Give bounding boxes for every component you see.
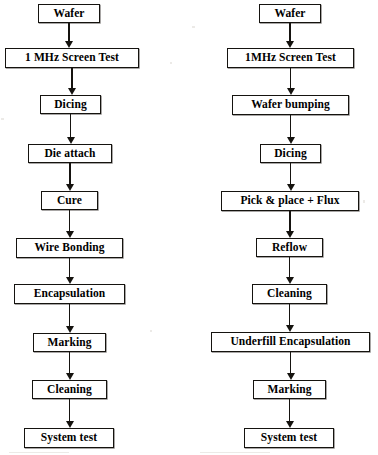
flip-chip-arrow-4 — [285, 163, 296, 191]
flip-chip-step-8: Underfill Encapsulation — [211, 332, 370, 352]
wire-bond-step-10: System test — [24, 428, 114, 448]
arrow-head-icon — [66, 326, 74, 333]
arrow-head-icon — [287, 373, 295, 380]
wire-bond-step-4: Die attach — [28, 144, 112, 163]
arrow-head-icon — [68, 88, 76, 95]
flip-chip-step-4: Dicing — [260, 144, 321, 163]
wire-bond-step-9: Cleaning — [32, 380, 107, 399]
arrow-stem — [69, 399, 71, 422]
process-step-label: 1MHz Screen Test — [245, 52, 336, 64]
process-step-label: Wafer bumping — [251, 99, 330, 111]
arrow-head-icon — [66, 277, 74, 284]
arrow-stem — [290, 68, 292, 89]
wire-bond-step-7: Encapsulation — [14, 284, 125, 304]
arrow-head-icon — [287, 184, 295, 191]
wire-bond-step-3: Dicing — [40, 95, 101, 114]
arrow-head-icon — [286, 325, 294, 332]
flip-chip-step-5: Pick & place + Flux — [221, 191, 359, 211]
process-step-label: System test — [261, 432, 317, 444]
process-step-label: Wire Bonding — [34, 242, 104, 254]
process-step-label: Reflow — [272, 241, 307, 253]
wire-bond-arrow-3 — [65, 114, 76, 144]
arrow-stem — [69, 163, 71, 185]
process-step-label: Pick & place + Flux — [240, 195, 339, 207]
arrow-head-icon — [286, 421, 294, 428]
arrow-stem — [69, 352, 71, 374]
process-step-label: Wafer — [53, 7, 84, 19]
arrow-stem — [71, 68, 73, 89]
arrow-head-icon — [286, 41, 294, 48]
process-step-label: Wafer — [274, 7, 305, 19]
wire-bond-step-5: Cure — [41, 191, 98, 210]
wire-bond-arrow-8 — [64, 352, 75, 380]
flip-chip-arrow-1 — [285, 23, 296, 48]
arrow-stem — [289, 399, 291, 422]
flip-chip-arrow-6 — [284, 257, 295, 284]
arrow-stem — [70, 114, 72, 138]
arrow-stem — [69, 258, 71, 278]
arrow-head-icon — [287, 137, 295, 144]
flip-chip-step-9: Marking — [253, 380, 326, 399]
arrow-stem — [289, 257, 291, 278]
wire-bond-step-2: 1 MHz Screen Test — [5, 48, 139, 68]
wire-bond-arrow-9 — [64, 399, 75, 428]
flip-chip-step-2: 1MHz Screen Test — [227, 48, 354, 68]
wire-bond-arrow-4 — [65, 163, 76, 191]
flip-chip-step-1: Wafer — [259, 4, 321, 23]
process-step-label: Dicing — [274, 147, 307, 159]
arrow-head-icon — [65, 41, 73, 48]
process-step-label: Cleaning — [47, 383, 92, 395]
process-step-label: Marking — [267, 383, 311, 395]
arrow-stem — [290, 352, 292, 374]
wire-bond-step-8: Marking — [33, 333, 106, 352]
flip-chip-arrow-9 — [284, 399, 295, 428]
process-step-label: 1 MHz Screen Test — [25, 52, 119, 64]
arrow-stem — [68, 23, 70, 42]
process-step-label: Cure — [57, 194, 82, 206]
flip-chip-arrow-7 — [284, 304, 295, 332]
process-step-label: Encapsulation — [34, 288, 106, 300]
arrow-stem — [289, 304, 291, 326]
process-step-label: Underfill Encapsulation — [230, 336, 350, 348]
wire-bond-arrow-2 — [67, 68, 78, 95]
flip-chip-step-3: Wafer bumping — [232, 95, 349, 115]
arrow-head-icon — [66, 373, 74, 380]
flip-chip-arrow-8 — [285, 352, 296, 380]
arrow-head-icon — [66, 421, 74, 428]
wire-bond-step-1: Wafer — [38, 4, 100, 23]
arrow-head-icon — [66, 184, 74, 191]
arrow-head-icon — [286, 277, 294, 284]
arrow-head-icon — [66, 231, 74, 238]
arrow-stem — [290, 163, 292, 185]
process-step-label: Marking — [47, 336, 91, 348]
flip-chip-arrow-5 — [285, 211, 296, 238]
process-step-label: System test — [41, 432, 97, 444]
flip-chip-arrow-3 — [285, 115, 296, 144]
wire-bond-arrow-6 — [64, 258, 75, 284]
arrow-stem — [290, 115, 292, 138]
process-flow-diagram: Wafer1 MHz Screen TestDicingDie attachCu… — [0, 0, 378, 455]
arrow-stem — [69, 210, 71, 232]
arrow-stem — [289, 23, 291, 42]
process-step-label: Die attach — [44, 147, 95, 159]
wire-bond-arrow-1 — [64, 23, 75, 48]
arrow-stem — [289, 211, 291, 232]
arrow-head-icon — [286, 231, 294, 238]
arrow-head-icon — [67, 137, 75, 144]
flip-chip-arrow-2 — [285, 68, 296, 95]
process-step-label: Cleaning — [267, 288, 312, 300]
process-step-label: Dicing — [54, 98, 87, 110]
wire-bond-arrow-5 — [64, 210, 75, 238]
arrow-head-icon — [287, 88, 295, 95]
flip-chip-step-6: Reflow — [256, 238, 323, 257]
arrow-stem — [69, 304, 71, 327]
wire-bond-arrow-7 — [64, 304, 75, 333]
flip-chip-step-7: Cleaning — [252, 284, 327, 304]
wire-bond-step-6: Wire Bonding — [16, 238, 123, 258]
flip-chip-step-10: System test — [244, 428, 334, 448]
